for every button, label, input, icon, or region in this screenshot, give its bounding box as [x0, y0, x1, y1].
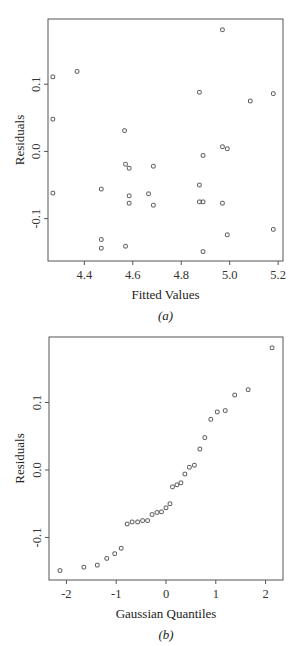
data-point: [130, 520, 134, 524]
data-point: [171, 485, 175, 489]
data-point: [246, 388, 250, 392]
data-point: [221, 28, 225, 32]
data-point: [175, 483, 179, 487]
plot-frame: [48, 19, 283, 261]
data-point: [201, 154, 205, 158]
x-tick-label: -1: [111, 587, 121, 601]
data-point: [152, 203, 156, 207]
data-point: [147, 192, 151, 196]
data-point: [160, 510, 164, 514]
data-point: [201, 250, 205, 254]
x-tick-label: 0: [163, 587, 169, 601]
data-point: [209, 418, 213, 422]
normal-qq-chart: -2-1012-0.10.00.1Gaussian QuantilesResid…: [0, 320, 298, 646]
x-tick-label: 5.2: [270, 268, 286, 282]
y-tick-label: 0.1: [30, 395, 44, 411]
data-point: [179, 481, 183, 485]
data-point: [124, 162, 128, 166]
data-point: [99, 246, 103, 250]
residuals-vs-fitted-chart: 4.44.64.85.05.2-0.10.00.1Fitted ValuesRe…: [0, 0, 298, 320]
data-point: [201, 200, 205, 204]
data-point: [248, 99, 252, 103]
data-point: [51, 75, 55, 79]
x-tick-label: 4.8: [173, 268, 189, 282]
x-tick-label: -2: [61, 587, 71, 601]
data-point: [150, 513, 154, 517]
data-point: [198, 90, 202, 94]
data-point: [272, 228, 276, 232]
data-point: [225, 147, 229, 151]
x-axis-title: Fitted Values: [131, 287, 199, 302]
data-point: [164, 506, 168, 510]
data-point: [123, 129, 127, 133]
data-point: [95, 563, 99, 567]
x-tick-label: 1: [213, 587, 219, 601]
y-tick-label: 0.0: [30, 462, 44, 478]
data-point: [146, 519, 150, 523]
y-tick-label: -0.1: [30, 528, 44, 548]
plot-frame: [49, 337, 283, 580]
data-point: [203, 436, 207, 440]
data-point: [113, 552, 117, 556]
data-point: [136, 520, 140, 524]
data-point: [168, 502, 172, 506]
y-tick-label: -0.1: [29, 209, 43, 229]
normal-qq-panel: -2-1012-0.10.00.1Gaussian QuantilesResid…: [0, 320, 298, 646]
y-tick-label: 0.0: [29, 144, 43, 160]
data-point: [99, 238, 103, 242]
data-point: [223, 409, 227, 413]
x-tick-label: 5.0: [222, 268, 238, 282]
x-tick-label: 4.4: [77, 268, 93, 282]
data-point: [105, 557, 109, 561]
data-point: [233, 393, 237, 397]
data-point: [272, 92, 276, 96]
data-point: [215, 410, 219, 414]
residuals-vs-fitted-panel: 4.44.64.85.05.2-0.10.00.1Fitted ValuesRe…: [0, 0, 298, 320]
data-point: [270, 346, 274, 350]
data-point: [51, 191, 55, 195]
data-point: [183, 472, 187, 476]
data-point: [221, 145, 225, 149]
x-tick-label: 2: [262, 587, 268, 601]
data-point: [225, 233, 229, 237]
data-point: [124, 244, 128, 248]
data-point: [221, 201, 225, 205]
y-axis-title: Residuals: [12, 433, 27, 484]
data-point: [155, 511, 159, 515]
y-axis-title: Residuals: [12, 115, 27, 166]
data-point: [141, 519, 145, 523]
data-point: [127, 201, 131, 205]
data-point: [198, 447, 202, 451]
data-point: [127, 166, 131, 170]
data-point: [198, 200, 202, 204]
x-tick-label: 4.6: [125, 268, 141, 282]
data-point: [51, 117, 55, 121]
data-point: [75, 70, 79, 74]
data-point: [119, 546, 123, 550]
data-point: [188, 465, 192, 469]
data-point: [58, 569, 62, 573]
data-point: [152, 164, 156, 168]
y-tick-label: 0.1: [29, 76, 43, 92]
x-axis-title: Gaussian Quantiles: [116, 606, 217, 621]
data-point: [82, 565, 86, 569]
data-point: [99, 187, 103, 191]
data-point: [198, 183, 202, 187]
data-point: [127, 194, 131, 198]
data-point: [125, 522, 129, 526]
panel-caption: (b): [158, 627, 173, 642]
data-point: [193, 463, 197, 467]
